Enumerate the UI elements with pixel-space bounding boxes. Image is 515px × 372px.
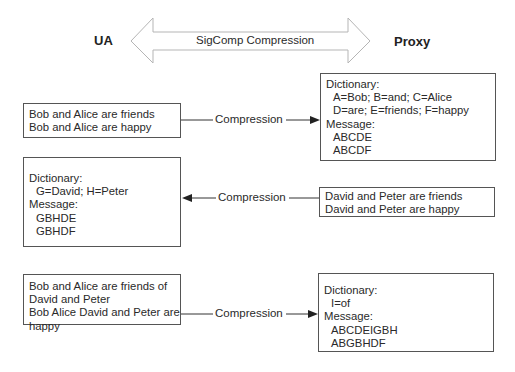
- text-line: happy: [29, 320, 175, 333]
- arrowhead-right-icon: [310, 116, 320, 124]
- message-entry: GBHDE: [29, 212, 175, 225]
- message-entry: ABCDF: [326, 144, 490, 157]
- ua-dictionary-box-2: Dictionary: G=David; H=Peter Message: GB…: [23, 157, 181, 247]
- ua-endpoint-label: UA: [94, 33, 113, 48]
- message-heading: Message:: [324, 310, 488, 323]
- text-line: Bob and Alice are friends: [29, 108, 175, 121]
- proxy-dictionary-box-3: Dictionary: I=of Message: ABCDEIGBH ABGB…: [318, 273, 494, 352]
- message-entry: ABCDE: [326, 131, 490, 144]
- connector-label: Compression: [213, 307, 285, 319]
- message-entry: ABCDEIGBH: [324, 324, 488, 337]
- proxy-dictionary-box-1: Dictionary: A=Bob; B=and; C=Alice D=are;…: [320, 73, 496, 161]
- dictionary-heading: Dictionary:: [326, 78, 490, 91]
- message-heading: Message:: [29, 198, 175, 211]
- text-line: Bob and Alice are friends of: [29, 280, 175, 293]
- text-line: Bob and Alice are happy: [29, 121, 175, 134]
- text-line: Bob Alice David and Peter are: [29, 306, 175, 319]
- proxy-message-box-2: David and Peter are friends David and Pe…: [319, 187, 495, 217]
- dictionary-heading: Dictionary:: [29, 172, 175, 185]
- proxy-endpoint-label: Proxy: [394, 34, 430, 49]
- arrowhead-left-icon: [182, 194, 192, 202]
- banner-label: SigComp Compression: [196, 34, 306, 46]
- dictionary-heading: Dictionary:: [324, 284, 488, 297]
- text-line: David and Peter: [29, 293, 175, 306]
- dictionary-entry: I=of: [324, 297, 488, 310]
- dictionary-entry: A=Bob; B=and; C=Alice: [326, 91, 490, 104]
- message-heading: Message:: [326, 118, 490, 131]
- dictionary-entry: G=David; H=Peter: [29, 185, 175, 198]
- ua-message-box-3: Bob and Alice are friends of David and P…: [23, 274, 181, 325]
- dictionary-entry: D=are; E=friends; F=happy: [326, 104, 490, 117]
- text-line: David and Peter are happy: [325, 203, 489, 216]
- message-entry: GBHDF: [29, 225, 175, 238]
- ua-message-box-1: Bob and Alice are friends Bob and Alice …: [23, 103, 181, 138]
- connector-label: Compression: [213, 113, 285, 125]
- message-entry: ABGBHDF: [324, 337, 488, 350]
- connector-label: Compression: [216, 191, 288, 203]
- arrowhead-right-icon: [308, 310, 318, 318]
- text-line: David and Peter are friends: [325, 190, 489, 203]
